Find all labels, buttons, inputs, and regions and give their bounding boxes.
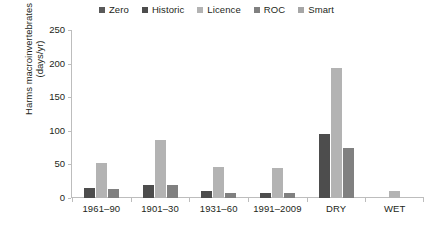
y-tick-mark (68, 30, 71, 31)
x-axis-label: WET (365, 203, 424, 214)
bar-group (307, 30, 366, 198)
legend-label: Smart (308, 5, 334, 15)
x-tick-mark (423, 198, 424, 202)
x-tick-mark (131, 198, 132, 202)
bar-chart: ZeroHistoricLicenceROCSmart Harms macroi… (0, 0, 433, 231)
x-axis-label: DRY (307, 203, 366, 214)
y-tick-mark (68, 131, 71, 132)
legend-label: Licence (207, 5, 240, 15)
bar-historic (260, 193, 271, 198)
x-axis-labels: 1961–901901–301931–601991–2009DRYWET (72, 203, 424, 214)
bar-group (189, 30, 248, 198)
x-axis-label: 1991–2009 (248, 203, 307, 214)
y-axis-title-line1: Harms macroinvertebrates (23, 0, 34, 139)
legend-swatch-icon (298, 7, 304, 13)
bar-licence (389, 191, 400, 198)
x-tick-mark (189, 198, 190, 202)
y-tick-mark (68, 164, 71, 165)
y-tick-label: 200 (25, 59, 72, 69)
x-tick-mark (307, 198, 308, 202)
x-tick-mark (72, 198, 73, 202)
bar-licence (96, 163, 107, 198)
legend-label: Zero (109, 5, 129, 15)
plot-area: 250200150100500 (72, 30, 424, 198)
y-tick-label: 100 (25, 126, 72, 136)
bar-licence (331, 68, 342, 198)
bar-historic (84, 188, 95, 198)
bar-groups (72, 30, 424, 198)
legend-item-zero[interactable]: Zero (99, 5, 129, 15)
bar-roc (225, 193, 236, 198)
legend-swatch-icon (99, 7, 105, 13)
bar-roc (284, 193, 295, 198)
legend-item-historic[interactable]: Historic (142, 5, 184, 15)
bar-historic (319, 134, 330, 198)
bar-licence (155, 140, 166, 198)
bar-historic (201, 191, 212, 198)
legend-swatch-icon (254, 7, 260, 13)
y-axis-title-line2: (days/yr) (34, 0, 45, 139)
x-axis-label: 1961–90 (72, 203, 131, 214)
x-tick-mark (365, 198, 366, 202)
legend-swatch-icon (142, 7, 148, 13)
y-tick-label: 50 (25, 160, 72, 170)
bar-group (72, 30, 131, 198)
legend-item-licence[interactable]: Licence (197, 5, 240, 15)
legend-swatch-icon (197, 7, 203, 13)
y-tick-mark (68, 97, 71, 98)
chart-legend: ZeroHistoricLicenceROCSmart (0, 5, 433, 15)
y-axis-title: Harms macroinvertebrates (days/yr) (23, 0, 45, 139)
legend-item-smart[interactable]: Smart (298, 5, 334, 15)
legend-label: ROC (264, 5, 285, 15)
bar-roc (108, 189, 119, 198)
bar-licence (213, 167, 224, 198)
bar-group (248, 30, 307, 198)
bar-roc (167, 185, 178, 198)
legend-label: Historic (152, 5, 184, 15)
y-tick-mark (68, 64, 71, 65)
bar-group (131, 30, 190, 198)
y-tick-label: 0 (25, 193, 72, 203)
y-tick-mark (68, 198, 71, 199)
x-tick-mark (248, 198, 249, 202)
x-axis-label: 1931–60 (189, 203, 248, 214)
bar-licence (272, 168, 283, 198)
y-tick-label: 250 (25, 25, 72, 35)
x-axis-label: 1901–30 (131, 203, 190, 214)
y-tick-label: 150 (25, 92, 72, 102)
bar-group (365, 30, 424, 198)
bar-roc (343, 148, 354, 198)
legend-item-roc[interactable]: ROC (254, 5, 285, 15)
bar-historic (143, 185, 154, 198)
